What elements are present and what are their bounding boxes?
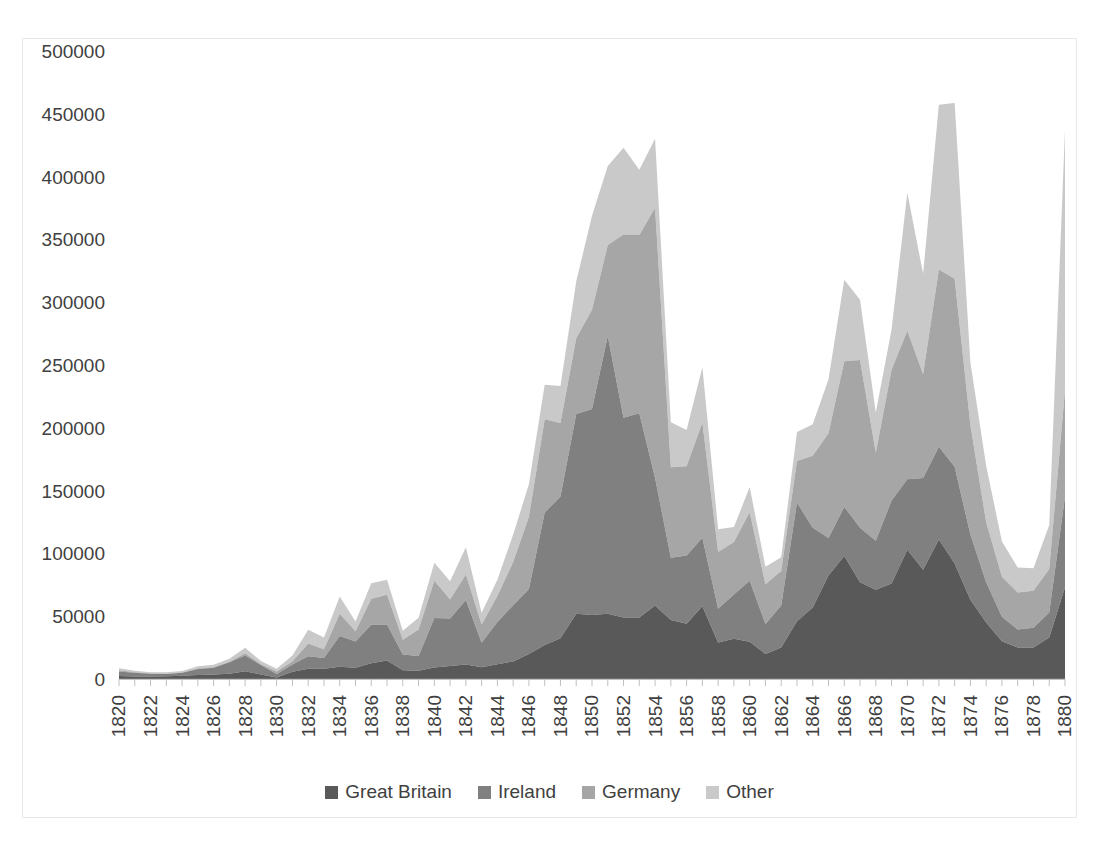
x-axis-tick-labels: 1820182218241826182818301832183418361838…: [108, 695, 1075, 738]
y-axis-tick-label: 400000: [42, 167, 105, 188]
y-axis-tick-label: 0: [94, 669, 105, 690]
x-axis-tick-label: 1846: [518, 695, 539, 737]
legend-swatch-icon: [478, 786, 491, 799]
area-series-group: [119, 103, 1065, 679]
legend-item-label: Great Britain: [345, 781, 452, 803]
x-axis-tick-label: 1834: [329, 695, 350, 738]
legend-swatch-icon: [706, 786, 719, 799]
chart-legend: Great BritainIrelandGermanyOther: [23, 781, 1076, 803]
y-axis-tick-label: 50000: [52, 606, 105, 627]
legend-item[interactable]: Other: [706, 781, 774, 803]
x-axis-tick-label: 1828: [235, 695, 256, 737]
y-axis-tick-label: 450000: [42, 104, 105, 125]
legend-swatch-icon: [325, 786, 338, 799]
y-axis-tick-label: 100000: [42, 543, 105, 564]
x-axis-tick-label: 1874: [960, 695, 981, 738]
legend-item-label: Ireland: [498, 781, 556, 803]
y-axis-tick-label: 300000: [42, 292, 105, 313]
x-axis-tick-label: 1832: [298, 695, 319, 737]
legend-item-label: Germany: [602, 781, 680, 803]
x-axis-tick-label: 1858: [708, 695, 729, 737]
x-axis-tick-label: 1824: [172, 695, 193, 738]
legend-swatch-icon: [582, 786, 595, 799]
y-axis-tick-label: 250000: [42, 355, 105, 376]
x-axis-tick-label: 1866: [834, 695, 855, 737]
y-axis-tick-label: 200000: [42, 418, 105, 439]
x-axis-tick-label: 1842: [455, 695, 476, 737]
x-axis-tick-label: 1848: [550, 695, 571, 737]
x-axis-tick-label: 1836: [361, 695, 382, 737]
legend-item-label: Other: [726, 781, 774, 803]
x-axis-tick-label: 1854: [645, 695, 666, 738]
x-axis-tick-label: 1864: [802, 695, 823, 738]
stacked-area-chart: 0500001000001500002000002500003000003500…: [23, 39, 1078, 779]
x-axis-tick-label: 1838: [392, 695, 413, 737]
x-axis-tick-label: 1870: [897, 695, 918, 737]
x-axis-tick-label: 1878: [1023, 695, 1044, 737]
x-axis-tick-label: 1826: [203, 695, 224, 737]
y-axis-tick-labels: 0500001000001500002000002500003000003500…: [42, 41, 105, 690]
x-axis-tick-label: 1844: [487, 695, 508, 738]
x-axis-tick-label: 1830: [266, 695, 287, 737]
x-axis-tick-label: 1860: [739, 695, 760, 737]
legend-item[interactable]: Germany: [582, 781, 680, 803]
x-axis-tick-label: 1822: [140, 695, 161, 737]
axis-lines: [119, 679, 1065, 686]
x-axis-tick-label: 1852: [613, 695, 634, 737]
x-axis-tick-label: 1876: [991, 695, 1012, 737]
x-axis-tick-label: 1880: [1054, 695, 1075, 737]
x-axis-tick-label: 1868: [865, 695, 886, 737]
x-axis-tick-label: 1840: [424, 695, 445, 737]
y-axis-tick-label: 350000: [42, 229, 105, 250]
x-axis-tick-label: 1872: [928, 695, 949, 737]
y-axis-tick-label: 500000: [42, 41, 105, 62]
legend-item[interactable]: Ireland: [478, 781, 556, 803]
x-axis-tick-label: 1856: [676, 695, 697, 737]
chart-container: 0500001000001500002000002500003000003500…: [22, 38, 1077, 818]
x-axis-tick-label: 1862: [771, 695, 792, 737]
x-axis-tick-label: 1820: [108, 695, 129, 737]
legend-item[interactable]: Great Britain: [325, 781, 452, 803]
x-axis-tick-label: 1850: [581, 695, 602, 737]
y-axis-tick-label: 150000: [42, 481, 105, 502]
